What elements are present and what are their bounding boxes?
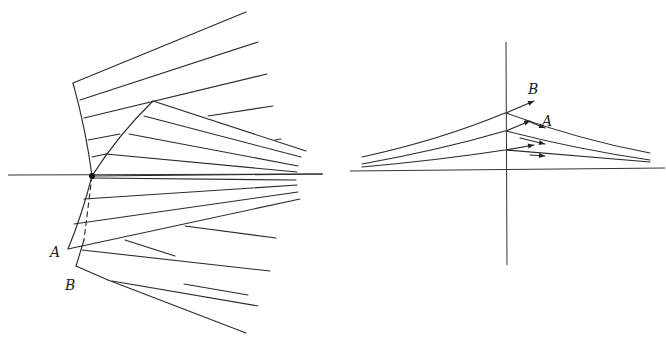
light-ray [80,42,258,100]
light-ray [144,116,301,157]
right-arrows [506,101,545,158]
wavefront-curve-a [68,83,92,249]
label-b-right: B [527,81,538,97]
light-ray [125,240,175,256]
light-ray [82,250,270,271]
light-ray [74,192,298,224]
focus-point [89,173,95,179]
wavefront-curve-b-lower [76,240,84,266]
arrowhead-icon [528,144,534,149]
light-ray [76,266,108,280]
left-rays [68,12,322,333]
light-ray [275,139,281,140]
arrowhead-icon [539,153,545,158]
light-ray [208,106,273,116]
light-ray [88,134,120,140]
right-vertical-axis [506,42,507,265]
label-a-left: A [48,244,60,260]
ray-curve [362,131,505,164]
diagram-canvas: A B A B [0,0,666,339]
light-ray [184,284,248,295]
wavefront-curve-b-dashed [84,176,92,240]
left-figure: A B [8,12,323,333]
right-horizontal-axis [350,168,665,171]
label-a-right: A [540,113,552,129]
ray-curve [506,150,650,162]
wavefront-curve-b [92,101,153,176]
light-ray [73,12,246,83]
label-b-left: B [64,277,75,293]
light-ray [92,178,296,180]
ray-curve [362,113,505,157]
light-ray [185,226,276,238]
light-ray [92,154,106,157]
light-ray [106,154,297,172]
right-figure: A B [350,42,665,265]
light-ray [108,280,246,333]
light-ray [153,101,306,151]
arrowhead-icon [528,101,534,106]
light-ray [68,199,300,249]
